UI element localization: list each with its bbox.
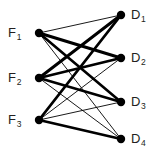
node-label-f2: F2	[8, 71, 21, 84]
node-label-subscript: 3	[17, 119, 22, 129]
node-label-subscript: 4	[141, 138, 146, 148]
node-label-letter: F	[8, 25, 16, 40]
node-label-f3: F3	[8, 113, 21, 126]
node-label-d1: D1	[131, 8, 146, 21]
graph-node-d1	[117, 11, 125, 19]
graph-node-f2	[35, 74, 43, 82]
node-label-subscript: 1	[17, 32, 22, 42]
graph-node-d4	[117, 135, 125, 143]
node-label-letter: F	[8, 112, 16, 127]
graph-node-f3	[35, 116, 43, 124]
node-label-letter: D	[131, 7, 141, 22]
node-label-letter: F	[8, 70, 16, 85]
graph-node-d3	[117, 98, 125, 106]
node-label-subscript: 1	[141, 14, 146, 24]
node-label-subscript: 2	[17, 77, 22, 87]
node-label-letter: D	[131, 131, 141, 146]
graph-node-f1	[35, 29, 43, 37]
node-label-d3: D3	[131, 95, 146, 108]
node-label-subscript: 3	[141, 101, 146, 111]
graph-node-d2	[117, 54, 125, 62]
node-label-d2: D2	[131, 51, 146, 64]
node-label-letter: D	[131, 94, 141, 109]
node-label-d4: D4	[131, 132, 146, 145]
node-label-subscript: 2	[141, 57, 146, 67]
bipartite-graph-figure: F1F2F3D1D2D3D4	[0, 0, 157, 160]
node-label-f1: F1	[8, 26, 21, 39]
node-label-letter: D	[131, 50, 141, 65]
edge-group	[39, 15, 121, 139]
